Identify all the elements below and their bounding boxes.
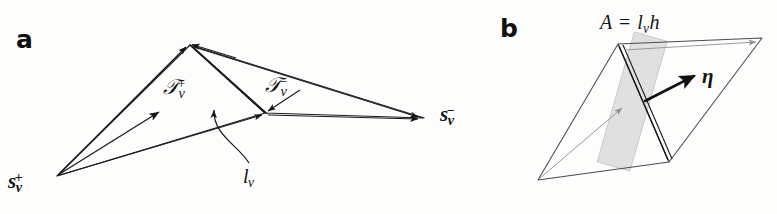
label-s-nu-plus: sν+ — [8, 171, 23, 195]
triangle-tau-minus-outline — [190, 45, 424, 118]
area-expression-head: A = l — [600, 11, 643, 33]
s-minus-superscript: − — [447, 103, 455, 118]
area-band-group — [597, 32, 667, 171]
panel-b-graphics — [538, 32, 762, 180]
label-normal-eta: η — [702, 66, 714, 87]
label-edge-length-l-nu: lν — [243, 166, 254, 189]
label-tau-nu-plus: 𝒯ν+ — [163, 77, 185, 101]
panel-label-b: b — [500, 16, 518, 41]
tau-plus-glyph: 𝒯 — [163, 75, 179, 99]
panel-label-a: a — [16, 27, 33, 52]
leader-line-l-nu — [214, 110, 249, 163]
s-plus-superscript: + — [15, 170, 23, 185]
tau-plus-superscript: + — [178, 76, 186, 91]
label-area-expression: A = lνh — [600, 12, 660, 35]
area-expression-tail: h — [649, 11, 660, 33]
l-subscript: ν — [248, 175, 254, 190]
panel-a-graphics — [57, 45, 424, 177]
figure-container: a b 𝒯ν+ 𝒯ν− sν+ sν− lν A = lνh η — [0, 0, 777, 214]
label-tau-nu-minus: 𝒯ν− — [265, 75, 287, 99]
figure-vector-graphics — [0, 0, 777, 214]
arrow-s-plus-to-mid-vertex — [60, 115, 262, 175]
arrow-s-plus-to-tau-plus — [58, 112, 159, 175]
arrow-s-plus-to-apex — [59, 47, 186, 174]
tau-minus-glyph: 𝒯 — [265, 73, 281, 97]
triangle-tau-minus — [190, 45, 424, 118]
tau-minus-superscript: − — [280, 74, 288, 89]
area-band-rect — [597, 32, 667, 171]
label-s-nu-minus: sν− — [440, 104, 455, 128]
arrow-apex-to-s-minus — [194, 47, 418, 117]
